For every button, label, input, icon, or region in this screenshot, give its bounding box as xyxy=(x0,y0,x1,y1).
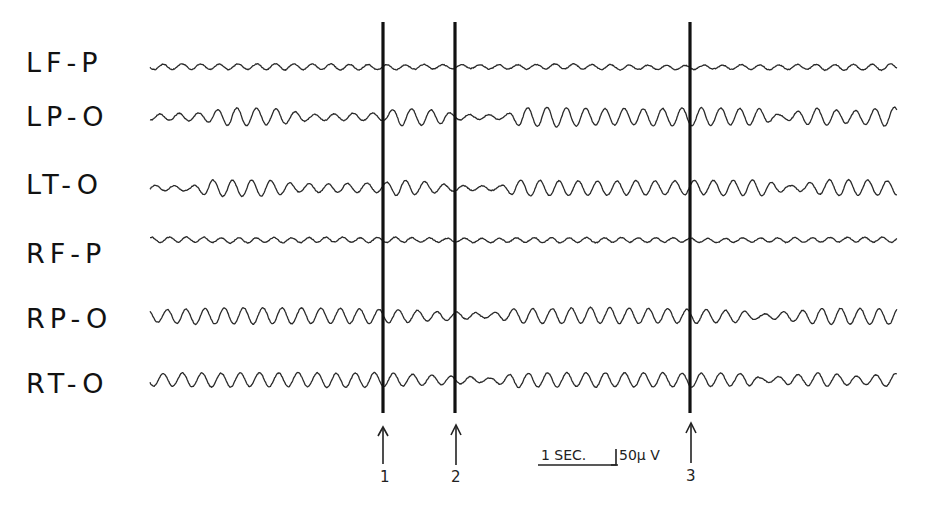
channel-label-lp-o: LP-O xyxy=(26,103,108,130)
eeg-trace-rf-p xyxy=(150,237,897,244)
eeg-trace-lf-p xyxy=(150,64,897,71)
eeg-trace-lt-o xyxy=(150,179,897,196)
arrow-up-icon xyxy=(686,423,696,463)
channel-label-rf-p: RF-P xyxy=(26,240,106,267)
channel-label-rt-o: RT-O xyxy=(26,370,109,397)
arrow-up-icon xyxy=(451,425,461,465)
channel-label-rp-o: RP-O xyxy=(26,305,112,332)
eeg-traces xyxy=(150,64,897,388)
eeg-trace-rt-o xyxy=(150,372,897,387)
voltage-scale-label: 50μ V xyxy=(619,447,660,463)
marker-label-2: 2 xyxy=(451,468,461,486)
time-scale-label: 1 SEC. xyxy=(541,447,586,463)
eeg-chart xyxy=(0,0,927,512)
channel-label-lt-o: LT-O xyxy=(26,171,103,198)
arrow-up-icon xyxy=(378,427,388,464)
eeg-trace-lp-o xyxy=(150,107,897,127)
marker-label-3: 3 xyxy=(686,467,696,485)
marker-label-1: 1 xyxy=(380,468,390,486)
eeg-trace-rp-o xyxy=(150,307,897,325)
channel-label-lf-p: LF-P xyxy=(26,49,103,76)
